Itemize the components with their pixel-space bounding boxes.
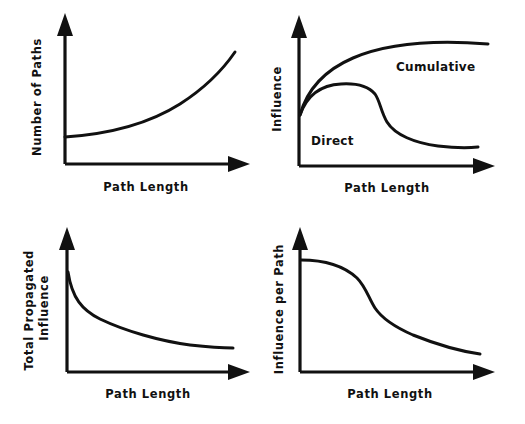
chart-panel-influence: Cumulative Direct Influence Path Length bbox=[263, 0, 525, 212]
curve-number-of-paths bbox=[65, 52, 235, 137]
y-axis-label-line-2: Influence bbox=[37, 275, 51, 341]
x-axis-arrow-icon bbox=[473, 158, 495, 174]
x-axis-arrow-icon bbox=[228, 156, 250, 172]
x-axis-label-path-length: Path Length bbox=[344, 181, 429, 195]
y-axis-label-number-of-paths: Number of Paths bbox=[30, 38, 44, 156]
annotation-cumulative: Cumulative bbox=[396, 60, 475, 74]
y-axis-arrow-icon bbox=[291, 15, 307, 38]
x-axis-label-path-length: Path Length bbox=[105, 387, 190, 401]
y-axis-arrow-icon bbox=[57, 13, 73, 36]
y-axis-label-total-propagated-influence: Total Propagated Influence bbox=[22, 245, 51, 370]
y-axis-arrow-icon bbox=[59, 227, 75, 250]
curve-influence-per-path bbox=[301, 260, 480, 354]
curve-total-propagated-influence bbox=[68, 272, 233, 348]
chart-panel-number-of-paths: Number of Paths Path Length bbox=[0, 0, 262, 212]
annotation-direct: Direct bbox=[311, 134, 354, 148]
curve-cumulative-influence bbox=[300, 42, 488, 115]
figure-root: Number of Paths Path Length Cumulative D… bbox=[0, 0, 525, 424]
chart-panel-total-propagated-influence: Total Propagated Influence Path Length bbox=[0, 212, 262, 424]
x-axis-label-path-length: Path Length bbox=[103, 180, 188, 194]
y-axis-label-influence: Influence bbox=[270, 66, 284, 132]
y-axis-arrow-icon bbox=[292, 227, 308, 250]
x-axis-label-path-length: Path Length bbox=[347, 387, 432, 401]
chart-panel-influence-per-path: Influence per Path Path Length bbox=[263, 212, 525, 424]
y-axis-label-influence-per-path: Influence per Path bbox=[272, 244, 286, 374]
x-axis-arrow-icon bbox=[228, 364, 250, 380]
x-axis-arrow-icon bbox=[473, 364, 495, 380]
y-axis-label-line-1: Total Propagated bbox=[22, 250, 36, 371]
